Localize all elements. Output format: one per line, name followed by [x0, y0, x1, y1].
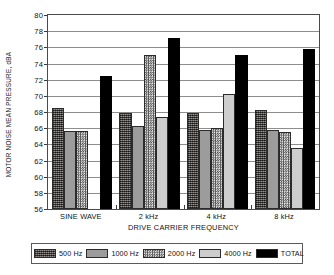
y-axis-tick-label: 56	[34, 205, 43, 214]
y-axis-tick-label: 66	[34, 124, 43, 133]
legend-item: 1000 Hz	[84, 244, 140, 263]
y-axis-tick-label: 80	[34, 11, 43, 20]
y-axis-tick-label: 76	[34, 43, 43, 52]
bar	[156, 117, 168, 209]
legend-label: 500 Hz	[59, 249, 82, 258]
x-axis-tick-label: 4 kHz	[207, 212, 227, 221]
bar-group	[251, 15, 319, 209]
x-axis-tick-label: 2 kHz	[139, 212, 159, 221]
bar	[168, 38, 180, 209]
y-axis-tick-label: 72	[34, 75, 43, 84]
bar	[132, 126, 144, 209]
y-axis-title-text: MOTOR NOISE MEAN PRESSURE, dBA	[6, 51, 13, 177]
legend-item: 2000 Hz	[141, 244, 197, 263]
legend-item: TOTAL	[254, 244, 306, 263]
y-axis-ticks: 56586062646668707274767880	[16, 0, 47, 275]
legend-swatch	[34, 249, 56, 258]
legend-label: 4000 Hz	[224, 249, 251, 258]
y-axis-tick-label: 58	[34, 188, 43, 197]
y-axis-title: MOTOR NOISE MEAN PRESSURE, dBA	[2, 28, 16, 200]
legend-swatch	[199, 249, 221, 258]
legend-swatch	[256, 249, 278, 258]
bar	[64, 131, 76, 209]
bar	[255, 110, 267, 209]
bar	[199, 130, 211, 209]
bar	[119, 113, 131, 209]
bar	[235, 55, 247, 209]
bars-layer	[48, 15, 319, 209]
bar	[223, 94, 235, 209]
x-axis-tick-label: SINE WAVE	[60, 212, 102, 221]
legend-label: 1000 Hz	[111, 249, 138, 258]
bar	[76, 131, 88, 209]
bar	[267, 130, 279, 209]
bar-chart: MOTOR NOISE MEAN PRESSURE, dBA 565860626…	[0, 0, 334, 275]
bar	[52, 108, 64, 209]
chart-legend: 500 Hz1000 Hz2000 Hz4000 HzTOTAL	[31, 243, 303, 264]
bar	[291, 148, 303, 209]
bar-group	[48, 15, 116, 209]
legend-label: TOTAL	[281, 249, 304, 258]
x-axis-tick-mark	[251, 205, 252, 209]
bar-group	[116, 15, 184, 209]
x-axis-tick-label: 8 kHz	[274, 212, 294, 221]
x-axis-tick-mark	[184, 205, 185, 209]
y-axis-tick-label: 62	[34, 156, 43, 165]
legend-swatch	[143, 249, 165, 258]
bar	[144, 55, 156, 209]
y-axis-tick-label: 70	[34, 91, 43, 100]
y-axis-tick-label: 68	[34, 108, 43, 117]
y-axis-tick-label: 78	[34, 27, 43, 36]
bar-group	[184, 15, 252, 209]
bar	[279, 132, 291, 209]
legend-swatch	[86, 249, 108, 258]
legend-item: 4000 Hz	[197, 244, 253, 263]
legend-item: 500 Hz	[32, 244, 84, 263]
bar	[100, 76, 112, 209]
x-axis-tick-mark	[116, 205, 117, 209]
x-axis-title: DRIVE CARRIER FREQUENCY	[47, 223, 320, 232]
legend-label: 2000 Hz	[168, 249, 195, 258]
y-axis-tick-label: 64	[34, 140, 43, 149]
bar	[303, 49, 315, 209]
bar	[187, 113, 199, 209]
plot-area	[47, 14, 320, 210]
y-axis-tick-label: 74	[34, 59, 43, 68]
bar	[211, 128, 223, 209]
y-axis-tick-label: 60	[34, 172, 43, 181]
